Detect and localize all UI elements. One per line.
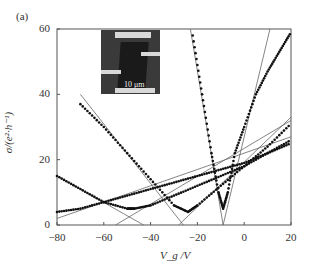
x-tick-label: −80 xyxy=(42,231,72,243)
x-axis-label: V_g /V xyxy=(160,249,190,261)
scale-bar-label: 10 μm xyxy=(124,80,145,89)
y-tick-label: 60 xyxy=(28,22,50,34)
x-tick-label: −20 xyxy=(182,231,212,243)
x-tick-label: 0 xyxy=(229,231,259,243)
data-points xyxy=(56,33,291,213)
y-tick-label: 20 xyxy=(28,153,50,165)
electrode xyxy=(101,70,121,74)
electrode xyxy=(115,32,151,38)
electrode xyxy=(141,52,160,56)
x-tick-label: 20 xyxy=(276,231,306,243)
x-tick-label: −40 xyxy=(136,231,166,243)
y-tick-label: 0 xyxy=(28,218,50,230)
x-tick-label: −60 xyxy=(89,231,119,243)
inset-micrograph: 10 μm xyxy=(101,30,160,94)
y-tick-label: 40 xyxy=(28,87,50,99)
y-axis-label: σ/(e²·h⁻¹) xyxy=(2,112,15,154)
panel-label: (a) xyxy=(16,10,28,22)
